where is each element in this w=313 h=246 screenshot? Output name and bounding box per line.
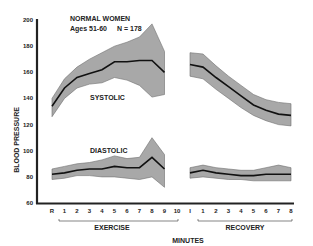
x-tick-label: 3 <box>88 208 92 214</box>
y-tick-labels: 6080100120140160180200 <box>23 17 34 206</box>
systolic-recovery-band <box>190 53 291 126</box>
chart-root: 6080100120140160180200 R12345678910I1234… <box>0 0 313 246</box>
y-tick-label: 100 <box>23 148 34 154</box>
ages-annotation: Ages 51-60 <box>70 25 107 33</box>
systolic-exercise-band <box>52 24 165 117</box>
systolic-label: SYSTOLIC <box>90 94 125 101</box>
exercise-label: EXERCISE <box>94 224 130 231</box>
x-tick-label: 7 <box>138 208 142 214</box>
diastolic-exercise-band <box>52 138 165 188</box>
diastolic-label: DIASTOLIC <box>90 147 128 154</box>
x-tick-label: 7 <box>277 208 281 214</box>
x-tick-label: 4 <box>239 208 243 214</box>
recovery-label: RECOVERY <box>225 224 264 231</box>
x-tick-label: 4 <box>100 208 104 214</box>
y-tick-label: 180 <box>23 43 34 49</box>
x-tick-label: 9 <box>163 208 167 214</box>
exercise-bracket <box>59 219 178 221</box>
x-tick-label: 8 <box>289 208 293 214</box>
y-tick-label: 200 <box>23 17 34 23</box>
x-tick-label: 2 <box>75 208 79 214</box>
x-axis-title: MINUTES <box>172 237 204 244</box>
x-tick-label: 5 <box>252 208 256 214</box>
x-tick-label: 5 <box>113 208 117 214</box>
y-tick-label: 160 <box>23 69 34 75</box>
x-tick-label: 6 <box>264 208 268 214</box>
chart-title: NORMAL WOMEN <box>70 15 130 22</box>
x-tick-label: I <box>189 208 191 214</box>
y-tick-label: 60 <box>26 200 33 206</box>
x-tick-label: 1 <box>63 208 67 214</box>
diastolic-recovery-band <box>190 165 291 181</box>
x-tick-label: 2 <box>214 208 218 214</box>
y-tick-label: 120 <box>23 122 34 128</box>
y-tick-label: 80 <box>26 174 33 180</box>
x-tick-label: 8 <box>150 208 154 214</box>
x-tick-label: 3 <box>227 208 231 214</box>
y-axis-title: BLOOD PRESSURE <box>13 107 20 173</box>
recovery-bracket <box>198 219 292 221</box>
x-tick-label: 6 <box>125 208 129 214</box>
x-tick-label: 1 <box>201 208 205 214</box>
n-annotation: N = 178 <box>117 25 142 32</box>
x-tick-labels: R12345678910I12345678 <box>50 208 294 214</box>
x-tick-label: 10 <box>174 208 181 214</box>
x-tick-label: R <box>50 208 55 214</box>
y-tick-label: 140 <box>23 95 34 101</box>
